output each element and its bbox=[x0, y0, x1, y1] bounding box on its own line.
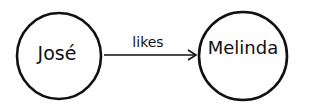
node-jose-label: José bbox=[38, 44, 77, 63]
node-melinda-label: Melinda bbox=[208, 39, 278, 57]
edge-likes-label: likes bbox=[132, 35, 163, 49]
